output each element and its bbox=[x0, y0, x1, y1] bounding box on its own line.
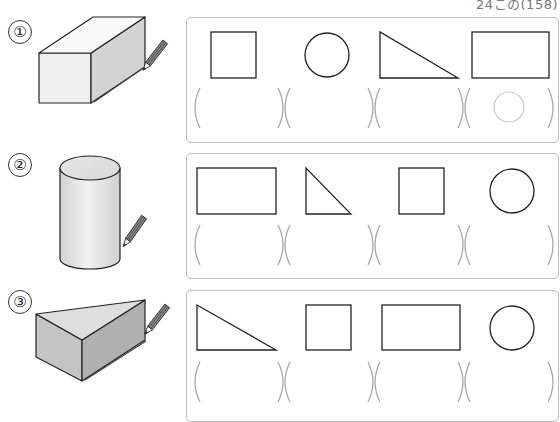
cylinder-illustration bbox=[60, 156, 120, 269]
rectangular-prism-illustration bbox=[39, 17, 145, 103]
answer-brackets-2 bbox=[195, 225, 553, 265]
answer-brackets-1 bbox=[195, 88, 553, 128]
shape-square[interactable] bbox=[399, 168, 444, 214]
shape-rectangle[interactable] bbox=[472, 32, 549, 78]
shape-circle[interactable] bbox=[490, 306, 534, 350]
shape-square[interactable] bbox=[211, 32, 256, 78]
shape-square[interactable] bbox=[306, 305, 351, 350]
triangular-prism-illustration bbox=[36, 300, 145, 381]
shape-rectangle[interactable] bbox=[382, 305, 460, 350]
shape-rectangle[interactable] bbox=[197, 168, 276, 214]
shape-circle[interactable] bbox=[490, 169, 534, 213]
shape-circle[interactable] bbox=[305, 33, 349, 77]
shape-right-triangle[interactable] bbox=[197, 305, 276, 350]
pencil-icon bbox=[121, 215, 147, 248]
shape-right-triangle[interactable] bbox=[380, 32, 458, 78]
example-answer-circle-mark bbox=[494, 92, 524, 122]
answer-brackets-3 bbox=[195, 362, 553, 402]
shape-right-triangle[interactable] bbox=[306, 168, 351, 214]
